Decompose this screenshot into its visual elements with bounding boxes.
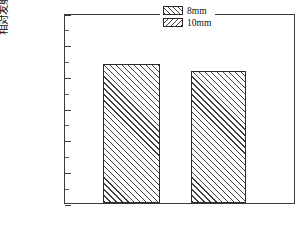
y-axis-tick [65,15,71,16]
y-axis-minor-tick [65,62,69,63]
legend-label: 8mm [187,6,207,16]
legend-item-8mm: 8mm [163,5,211,16]
bar-10mm [191,71,246,203]
y-axis-tick [65,205,71,206]
legend-label: 10mm [187,18,211,28]
y-axis-tick [65,78,71,79]
y-axis-tick [65,173,71,174]
bar-chart: 相对发射光谱强度/a.u. 01500030000450006000075000… [0,0,303,245]
legend-swatch-backslash-hatch-icon [163,18,183,27]
y-axis-minor-tick [65,30,69,31]
y-axis-minor-tick [65,189,69,190]
y-axis-title: 相对发射光谱强度/a.u. [0,0,9,52]
y-axis-minor-tick [65,157,69,158]
bar-8mm [103,64,160,203]
legend-swatch-forward-hatch-icon [163,6,183,15]
y-axis-minor-tick [65,94,69,95]
y-axis-tick [65,110,71,111]
legend: 8mm 10mm [160,3,215,30]
plot-area: 0150003000045000600007500090000 [64,14,295,204]
y-axis-minor-tick [65,125,69,126]
y-axis-tick [65,141,71,142]
y-axis-tick [65,46,71,47]
legend-item-10mm: 10mm [163,17,211,28]
